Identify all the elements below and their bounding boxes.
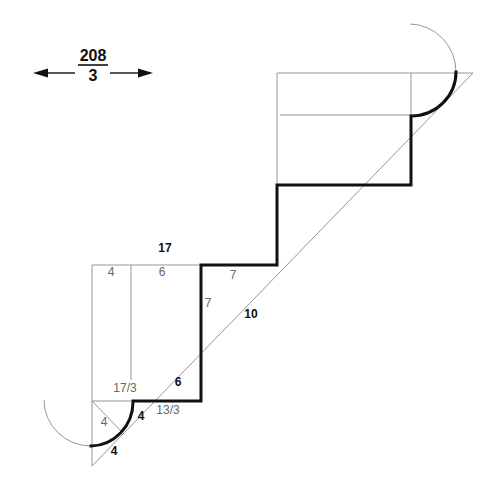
label-arc-bottom-4: 4 [111, 444, 118, 458]
right-arrow-icon [138, 69, 153, 78]
label-total-17: 17 [158, 241, 172, 255]
left-arrow-icon [33, 69, 48, 78]
label-step-7-horizontal: 7 [230, 268, 237, 282]
label-step-7-vertical: 7 [205, 296, 212, 310]
label-segment-4: 4 [108, 265, 115, 279]
stair-profile [91, 72, 456, 446]
width-annotation: 208 3 [33, 47, 153, 84]
staircase-diagram: 208 3 17 4 6 17/3 6 [0, 0, 494, 484]
label-diagonal-10: 10 [244, 307, 258, 321]
long-diagonal [92, 73, 473, 466]
construction-lines [44, 24, 473, 466]
label-segment-6: 6 [159, 265, 166, 279]
label-diagonal-6: 6 [175, 375, 182, 389]
label-17-3: 17/3 [113, 381, 137, 395]
width-denominator: 3 [89, 67, 98, 84]
dimension-labels: 17 4 6 17/3 6 13/3 7 7 10 4 4 4 [101, 241, 258, 458]
bottom-construction-arc [44, 400, 91, 446]
stair-thick-path [91, 72, 456, 446]
width-numerator: 208 [80, 47, 107, 64]
label-arc-right-4: 4 [138, 409, 145, 423]
label-arc-inner-4: 4 [101, 415, 108, 429]
top-construction-arc [410, 24, 456, 72]
label-13-3: 13/3 [156, 403, 180, 417]
